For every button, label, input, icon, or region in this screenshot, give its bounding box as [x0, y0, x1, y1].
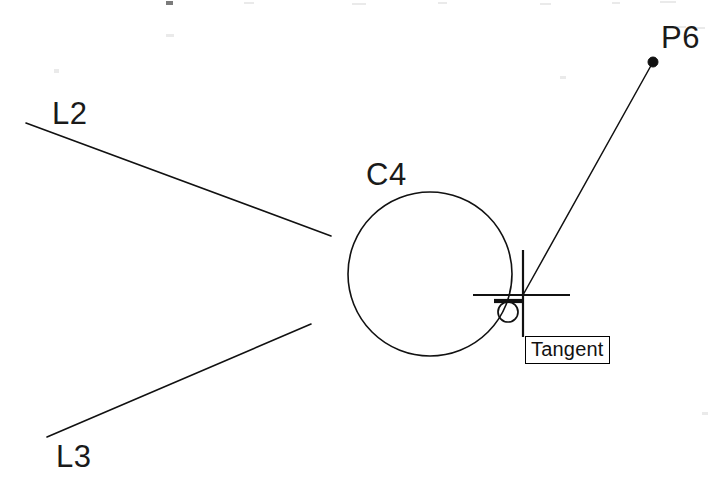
tangent-osnap-circle	[498, 302, 518, 322]
crosshair-cursor[interactable]	[473, 250, 570, 337]
tangent-tooltip: Tangent	[525, 336, 610, 364]
line-l2[interactable]	[26, 123, 331, 236]
label-l3: L3	[56, 441, 91, 472]
label-p6: P6	[661, 22, 700, 53]
label-l2: L2	[52, 98, 87, 129]
line-l3[interactable]	[47, 324, 311, 437]
point-p6-node[interactable]	[648, 57, 658, 67]
rubber-band-line[interactable]	[523, 62, 653, 295]
circle-c4[interactable]	[348, 192, 512, 356]
cad-vector-layer	[0, 0, 721, 485]
cad-drawing-canvas[interactable]: L2 L3 C4 P6 Tangent	[0, 0, 721, 485]
label-c4: C4	[366, 159, 407, 190]
